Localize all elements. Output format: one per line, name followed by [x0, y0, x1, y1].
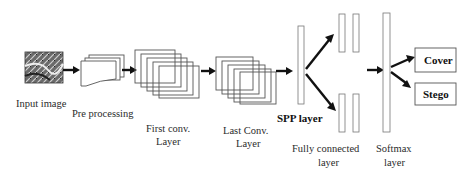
network-diagram: Input image Pre processing First conv. L…	[0, 0, 474, 174]
spp-layer-bar	[298, 26, 304, 104]
last-conv-label-1: Last Conv.	[223, 125, 268, 136]
arrow-lastconv-to-spp	[276, 67, 293, 75]
input-image-label: Input image	[16, 98, 67, 109]
softmax-layer-bar	[383, 13, 390, 132]
softmax-label-1: Softmax	[376, 143, 412, 154]
spp-layer-label: SPP layer	[277, 112, 323, 124]
arrow-softmax-to-stego	[391, 72, 411, 88]
last-conv-label-2: Layer	[236, 138, 261, 149]
stego-output-label: Stego	[423, 88, 449, 100]
first-conv-label-1: First conv.	[146, 123, 190, 134]
first-conv-label-2: Layer	[156, 136, 181, 147]
arrow-input-to-pre	[63, 66, 80, 74]
first-conv-block	[135, 50, 199, 98]
arrow-firstconv-to-lastconv	[201, 67, 216, 75]
arrow-spp-to-fc-bottom	[306, 74, 336, 111]
softmax-label-2: layer	[384, 157, 405, 168]
arrow-spp-to-fc-top	[306, 34, 334, 69]
preprocessing-label: Pre processing	[72, 108, 134, 119]
arrow-softmax-to-cover	[391, 55, 415, 67]
last-conv-block	[216, 57, 276, 104]
fc-label-1: Fully connected	[292, 143, 360, 154]
arrow-fc-to-softmax	[367, 66, 384, 74]
input-image	[25, 52, 63, 83]
cover-output-label: Cover	[424, 54, 453, 66]
preprocessing-block	[81, 55, 124, 86]
fully-connected-block	[339, 14, 359, 132]
fc-label-2: layer	[318, 157, 339, 168]
